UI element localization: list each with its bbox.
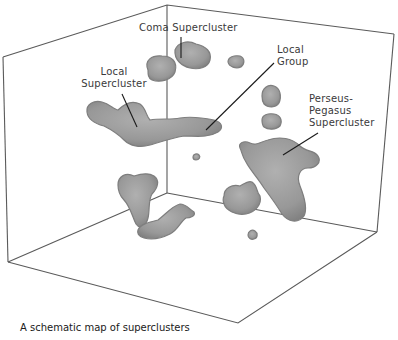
supercluster-map-figure: Coma Supercluster Local Supercluster Loc… [0,0,398,340]
local-supercluster-label-line2: Supercluster [80,78,148,90]
right-blob-lower [262,114,281,129]
local-supercluster-label-line1: Local [80,66,148,78]
coma-blob-left [147,56,176,81]
coma-blob-small [228,56,244,68]
local-group-label: Local Group [277,44,308,68]
local-supercluster-blob [87,101,222,146]
perseus-label-line2: Pegasus [309,105,375,117]
local-group-label-line2: Group [277,56,308,68]
box-left-edge [3,57,8,262]
supercluster-3d-box [0,0,398,340]
perseus-side-blob [223,181,260,214]
perseus-label-line1: Perseus- [309,93,375,105]
box-front-floor-edges [8,232,377,323]
figure-caption: A schematic map of superclusters [20,322,190,333]
lower-left-blob [118,174,158,227]
lower-small-blob [248,230,257,239]
small-dot-blob [193,154,200,160]
right-blob-upper [262,85,280,106]
local-supercluster-label: Local Supercluster [80,66,148,90]
box-right-edge [377,34,394,232]
coma-blob-mid [175,42,210,69]
local-group-label-line1: Local [277,44,308,56]
perseus-pegasus-label: Perseus- Pegasus Supercluster [309,93,375,129]
coma-supercluster-label: Coma Supercluster [139,22,238,34]
perseus-label-line3: Supercluster [309,117,375,129]
